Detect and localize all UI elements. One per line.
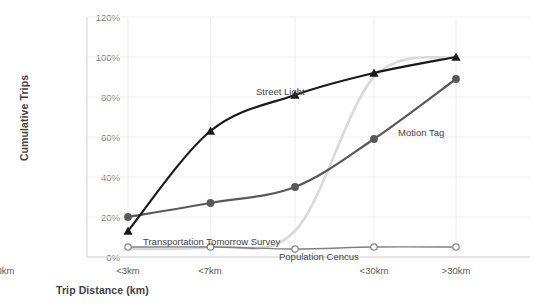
chart-container: Cumulative Trips Trip Distance (km) 0% 2…	[0, 0, 540, 308]
series-street-light	[123, 52, 460, 234]
data-point	[125, 244, 131, 250]
series-label-census: Population Cencus	[279, 251, 359, 262]
data-series-layer	[123, 52, 460, 252]
series-label-motion-tag: Motion Tag	[398, 127, 444, 138]
data-point	[291, 183, 299, 191]
plot-area	[0, 0, 540, 308]
data-point	[453, 244, 459, 250]
data-point	[124, 213, 132, 221]
series-label-tts: Transportation Tomorrow Survey	[143, 236, 280, 247]
data-point	[370, 135, 378, 143]
data-point	[452, 75, 460, 83]
data-point	[371, 244, 377, 250]
data-point	[207, 199, 215, 207]
gridlines	[87, 17, 530, 257]
series-label-street-light: Street Light	[256, 86, 305, 97]
